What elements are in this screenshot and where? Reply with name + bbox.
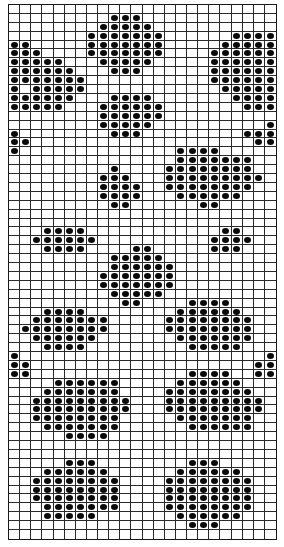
- grid-cell: [243, 156, 254, 165]
- grid-cell: [209, 397, 220, 406]
- grid-cell: [232, 94, 243, 103]
- filled-dot-icon: [122, 113, 129, 119]
- grid-cell: [232, 227, 243, 236]
- grid-cell: [220, 468, 231, 477]
- grid-cell: [198, 450, 209, 459]
- grid-cell: [154, 67, 165, 76]
- grid-cell: [143, 156, 154, 165]
- grid-cell: [9, 494, 20, 503]
- grid-cell: [31, 245, 42, 254]
- grid-cell: [42, 236, 53, 245]
- filled-dot-icon: [267, 353, 274, 359]
- grid-cell: [209, 201, 220, 210]
- grid-cell: [120, 388, 131, 397]
- grid-cell: [109, 219, 120, 228]
- grid-cell: [20, 192, 31, 201]
- grid-cell: [232, 521, 243, 530]
- grid-cell: [31, 388, 42, 397]
- grid-cell: [243, 219, 254, 228]
- grid-cell: [54, 210, 65, 219]
- filled-dot-icon: [100, 398, 107, 404]
- grid-cell: [243, 388, 254, 397]
- grid-cell: [131, 459, 142, 468]
- grid-cell: [154, 397, 165, 406]
- filled-dot-icon: [100, 50, 107, 56]
- grid-cell: [187, 414, 198, 423]
- grid-cell: [31, 325, 42, 334]
- grid-cell: [265, 174, 276, 183]
- grid-cell: [187, 325, 198, 334]
- grid-cell: [265, 361, 276, 370]
- grid-cell: [131, 468, 142, 477]
- grid-cell: [76, 352, 87, 361]
- filled-dot-icon: [88, 380, 95, 386]
- grid-cell: [31, 227, 42, 236]
- grid-cell: [243, 121, 254, 130]
- grid-cell: [20, 397, 31, 406]
- grid-cell: [98, 210, 109, 219]
- grid-cell: [265, 263, 276, 272]
- grid-cell: [42, 441, 53, 450]
- grid-cell: [42, 352, 53, 361]
- grid-cell: [87, 210, 98, 219]
- grid-cell: [98, 361, 109, 370]
- filled-dot-icon: [111, 122, 118, 128]
- grid-cell: [98, 414, 109, 423]
- grid-cell: [243, 254, 254, 263]
- grid-cell: [254, 370, 265, 379]
- grid-cell: [131, 32, 142, 41]
- grid-cell: [143, 343, 154, 352]
- grid-cell: [20, 325, 31, 334]
- grid-cell: [154, 512, 165, 521]
- grid-cell: [31, 281, 42, 290]
- filled-dot-icon: [244, 424, 251, 430]
- grid-cell: [176, 477, 187, 486]
- grid-cell: [265, 32, 276, 41]
- grid-cell: [31, 477, 42, 486]
- filled-dot-icon: [189, 157, 196, 163]
- grid-cell: [109, 138, 120, 147]
- filled-dot-icon: [189, 424, 196, 430]
- grid-cell: [42, 423, 53, 432]
- grid-cell: [120, 121, 131, 130]
- grid-cell: [265, 370, 276, 379]
- grid-cell: [109, 361, 120, 370]
- grid-cell: [209, 405, 220, 414]
- grid-cell: [76, 183, 87, 192]
- grid-cell: [243, 290, 254, 299]
- grid-cell: [87, 290, 98, 299]
- grid-cell: [265, 432, 276, 441]
- filled-dot-icon: [255, 77, 262, 83]
- filled-dot-icon: [166, 166, 173, 172]
- grid-cell: [187, 397, 198, 406]
- grid-cell: [154, 370, 165, 379]
- grid-cell: [243, 5, 254, 14]
- grid-cell: [143, 334, 154, 343]
- grid-cell: [165, 121, 176, 130]
- grid-cell: [42, 254, 53, 263]
- grid-cell: [9, 530, 20, 539]
- filled-dot-icon: [222, 344, 229, 350]
- grid-cell: [31, 85, 42, 94]
- filled-dot-icon: [166, 406, 173, 412]
- grid-cell: [131, 58, 142, 67]
- filled-dot-icon: [233, 335, 240, 341]
- grid-cell: [209, 530, 220, 539]
- grid-cell: [254, 49, 265, 58]
- filled-dot-icon: [222, 237, 229, 243]
- grid-cell: [209, 343, 220, 352]
- filled-dot-icon: [200, 513, 207, 519]
- grid-cell: [31, 272, 42, 281]
- grid-cell: [198, 67, 209, 76]
- grid-cell: [131, 67, 142, 76]
- filled-dot-icon: [166, 389, 173, 395]
- filled-dot-icon: [133, 33, 140, 39]
- filled-dot-icon: [22, 104, 29, 110]
- filled-dot-icon: [55, 228, 62, 234]
- grid-cell: [20, 486, 31, 495]
- grid-cell: [254, 290, 265, 299]
- grid-cell: [65, 414, 76, 423]
- grid-cell: [265, 486, 276, 495]
- grid-cell: [165, 477, 176, 486]
- filled-dot-icon: [222, 193, 229, 199]
